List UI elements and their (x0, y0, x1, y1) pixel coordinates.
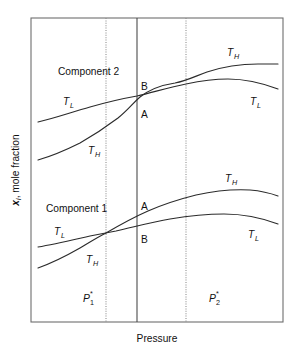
component-1-label: Component 1 (46, 203, 107, 214)
lower-point-a-label: A (141, 201, 148, 212)
chart-svg: Component 2 T L T H T H T L B A Componen… (0, 0, 298, 359)
component-2-label: Component 2 (58, 66, 119, 77)
p1-star-sup: * (90, 289, 93, 298)
lower-point-b-label: B (141, 234, 148, 245)
phase-diagram-figure: Component 2 T L T H T H T L B A Componen… (0, 0, 298, 359)
y-axis-main: mole fraction (10, 134, 21, 192)
comp2-TH-right-var: T (227, 47, 234, 58)
comp1-TL-left-sub: L (61, 231, 65, 240)
x-axis-label: Pressure (137, 333, 178, 344)
p2-star-sub: 2 (216, 298, 220, 307)
p2-star-var: P (209, 293, 216, 304)
upper-point-a-label: A (141, 109, 148, 120)
y-axis-label: xi, mole fraction (10, 134, 23, 206)
plot-frame (31, 18, 283, 322)
p2-star-sup: * (216, 289, 219, 298)
comp1-TH-right-sub: H (232, 178, 238, 187)
comp1-TH-left-sub: H (93, 259, 99, 268)
comp1-TL-left-var: T (54, 226, 61, 237)
comp2-TH-left-var: T (88, 145, 95, 156)
comp1-TH-right-var: T (225, 173, 232, 184)
comp2-TL-left-var: T (63, 96, 70, 107)
comp1-TH-left-var: T (86, 254, 93, 265)
upper-point-b-label: B (141, 81, 148, 92)
comp2-TH-right-sub: H (234, 52, 240, 61)
comp2-TH-left-sub: H (95, 150, 101, 159)
p1-star-sub: 1 (90, 298, 94, 307)
comp2-TL-right-var: T (250, 96, 257, 107)
comp2-TL-left-sub: L (70, 101, 74, 110)
comp1-TL-right-var: T (248, 229, 255, 240)
comp1-TL-right-sub: L (255, 234, 259, 243)
comp2-TL-right-sub: L (257, 101, 261, 110)
p1-star-var: P (83, 293, 90, 304)
y-axis-label-text: xi, mole fraction (10, 134, 23, 206)
